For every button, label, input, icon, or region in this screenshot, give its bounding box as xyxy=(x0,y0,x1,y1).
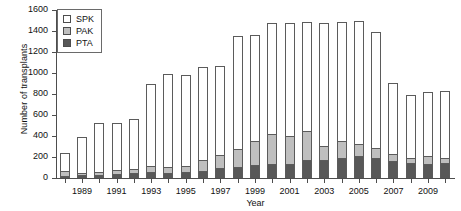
bar-segment-pak xyxy=(267,134,277,164)
bar-segment-spk xyxy=(60,153,70,171)
bar-segment-spk xyxy=(198,67,208,160)
y-tick: 400 xyxy=(0,136,56,137)
x-tick-mark xyxy=(65,179,66,183)
bar-1998 xyxy=(233,36,243,178)
bar-segment-pak xyxy=(423,156,433,164)
bar-segment-spk xyxy=(319,23,329,146)
bar-segment-pta xyxy=(440,163,450,178)
bar-segment-spk xyxy=(146,84,156,166)
y-tick-label: 0 xyxy=(43,172,48,182)
bar-segment-spk xyxy=(406,95,416,158)
y-tick: 1200 xyxy=(0,52,56,53)
x-tick-mark xyxy=(411,179,412,183)
bar-segment-pta xyxy=(198,171,208,178)
bar-segment-pak xyxy=(250,141,260,165)
y-tick: 800 xyxy=(0,94,56,95)
y-tick: 1600 xyxy=(0,10,56,11)
bar-segment-pta xyxy=(129,173,139,178)
x-tick-label: 2001 xyxy=(280,186,300,196)
bar-2002 xyxy=(302,22,312,178)
bar-segment-spk xyxy=(267,23,277,134)
bar-segment-pak xyxy=(337,141,347,158)
x-tick-label: 1991 xyxy=(107,186,127,196)
x-tick-mark xyxy=(376,179,377,183)
bar-1995 xyxy=(181,75,191,178)
y-tick-label: 1400 xyxy=(28,25,48,35)
bar-segment-pta xyxy=(388,161,398,178)
bar-segment-pak xyxy=(354,144,364,156)
bar-segment-pta xyxy=(94,175,104,178)
bar-1990 xyxy=(94,123,104,178)
x-tick-mark xyxy=(151,179,152,183)
bar-1988 xyxy=(60,153,70,178)
x-tick-mark xyxy=(238,179,239,183)
bar-segment-pta xyxy=(423,164,433,178)
x-tick-mark xyxy=(117,179,118,183)
bar-1989 xyxy=(77,137,87,178)
bar-segment-pta xyxy=(267,164,277,178)
bar-segment-spk xyxy=(233,36,243,149)
x-tick-label: 1999 xyxy=(245,186,265,196)
y-tick: 600 xyxy=(0,115,56,116)
x-tick-mark xyxy=(220,179,221,183)
x-tick-mark xyxy=(168,179,169,183)
x-tick-mark xyxy=(307,179,308,183)
bar-2007 xyxy=(388,83,398,178)
legend-label: PTA xyxy=(76,39,93,48)
legend-label: SPK xyxy=(76,15,94,24)
bar-segment-spk xyxy=(440,91,450,158)
x-tick-mark xyxy=(203,179,204,183)
bar-2003 xyxy=(319,23,329,178)
bar-segment-spk xyxy=(388,83,398,154)
bar-segment-pta xyxy=(285,164,295,178)
y-tick-label: 1600 xyxy=(28,4,48,14)
legend-item-pta: PTA xyxy=(63,37,94,49)
bar-segment-spk xyxy=(77,137,87,174)
legend-swatch-icon xyxy=(63,39,71,47)
bar-segment-pta xyxy=(215,168,225,178)
x-tick-label: 1989 xyxy=(72,186,92,196)
bar-segment-pta xyxy=(406,163,416,178)
bar-segment-spk xyxy=(423,92,433,157)
x-tick-label: 2007 xyxy=(383,186,403,196)
bar-2001 xyxy=(285,23,295,178)
y-tick-label: 800 xyxy=(33,88,48,98)
bar-segment-spk xyxy=(285,23,295,136)
x-tick-mark xyxy=(445,179,446,183)
bar-segment-pak xyxy=(319,146,329,160)
x-tick-mark xyxy=(290,179,291,183)
plot-area xyxy=(56,10,454,178)
x-tick-label: 1995 xyxy=(176,186,196,196)
x-tick-mark xyxy=(342,179,343,183)
bar-segment-pta xyxy=(250,165,260,178)
x-tick-label: 2003 xyxy=(314,186,334,196)
bar-segment-spk xyxy=(94,123,104,172)
bar-segment-spk xyxy=(112,123,122,170)
y-tick: 1000 xyxy=(0,73,56,74)
x-tick-label: 1993 xyxy=(141,186,161,196)
bar-segment-pta xyxy=(163,173,173,178)
bar-segment-pta xyxy=(302,160,312,178)
y-tick: 0 xyxy=(0,178,56,179)
bar-segment-pak xyxy=(371,148,381,158)
bar-segment-spk xyxy=(337,22,347,142)
bar-2006 xyxy=(371,32,381,178)
bar-segment-pak xyxy=(233,149,243,167)
y-tick-label: 1200 xyxy=(28,46,48,56)
y-tick-label: 400 xyxy=(33,130,48,140)
legend-swatch-icon xyxy=(63,27,71,35)
bar-2004 xyxy=(337,22,347,178)
x-axis-title: Year xyxy=(56,198,455,208)
bar-segment-spk xyxy=(181,75,191,166)
bar-1994 xyxy=(163,74,173,178)
x-tick-label: 1997 xyxy=(210,186,230,196)
bar-2000 xyxy=(267,23,277,178)
legend-label: PAK xyxy=(76,27,93,36)
bar-segment-pta xyxy=(146,172,156,178)
x-tick-mark xyxy=(186,179,187,183)
bar-1999 xyxy=(250,35,260,178)
y-tick-label: 200 xyxy=(33,151,48,161)
x-tick-mark xyxy=(99,179,100,183)
x-tick-mark xyxy=(359,179,360,183)
x-tick-mark xyxy=(255,179,256,183)
